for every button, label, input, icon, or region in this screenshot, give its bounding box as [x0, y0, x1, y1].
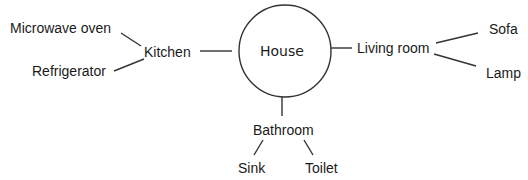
center-node-label: House	[260, 43, 304, 59]
edge-bathroom-toilet	[304, 140, 313, 155]
edge-bathroom-sink	[254, 140, 263, 155]
edge-living-sofa	[436, 33, 478, 43]
node-toilet: Toilet	[305, 160, 338, 176]
node-lamp: Lamp	[486, 65, 521, 81]
node-sink: Sink	[238, 160, 265, 176]
node-refrigerator: Refrigerator	[32, 63, 106, 79]
node-bathroom: Bathroom	[253, 122, 314, 138]
edge-living-lamp	[434, 54, 476, 66]
node-living-room: Living room	[357, 40, 429, 56]
edge-kitchen-refrigerator	[114, 59, 144, 71]
node-microwave-oven: Microwave oven	[10, 20, 111, 36]
node-sofa: Sofa	[489, 21, 518, 37]
edge-kitchen-microwave	[121, 33, 141, 46]
node-kitchen: Kitchen	[144, 44, 191, 60]
